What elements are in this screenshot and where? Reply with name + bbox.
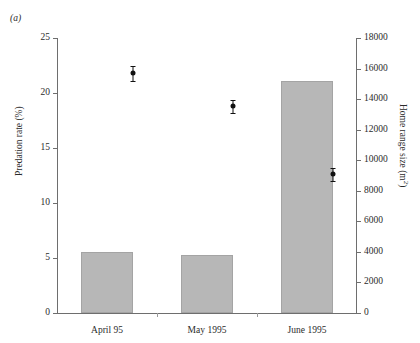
- right-tick: [356, 252, 361, 253]
- right-tick: [356, 130, 361, 131]
- left-tick: [53, 313, 58, 314]
- right-tick-label: 10000: [364, 155, 388, 165]
- right-tick: [356, 38, 361, 39]
- category-tick: [257, 313, 258, 317]
- category-label: April 95: [91, 325, 123, 336]
- data-point-marker: [230, 104, 235, 109]
- error-bar-cap-lower: [330, 181, 335, 182]
- panel-label: (a): [10, 13, 21, 23]
- left-tick-label: 5: [45, 253, 50, 263]
- left-tick-label: 0: [45, 308, 50, 318]
- left-axis-line: [57, 38, 58, 314]
- right-tick-label: 14000: [364, 94, 388, 104]
- right-tick-label: 2000: [364, 278, 383, 288]
- right-tick-label: 12000: [364, 125, 388, 135]
- left-tick: [53, 203, 58, 204]
- error-bar-cap-lower: [230, 113, 235, 114]
- right-tick: [356, 99, 361, 100]
- category-label: May 1995: [188, 325, 227, 336]
- left-tick: [53, 258, 58, 259]
- right-axis-title-base: Home range size (m: [398, 104, 408, 181]
- plot-area: 0510152025 02000400060008000100001200014…: [57, 38, 357, 313]
- data-point-marker: [130, 71, 135, 76]
- category-tick: [157, 313, 158, 317]
- right-tick-label: 4000: [364, 247, 383, 257]
- left-tick: [53, 148, 58, 149]
- error-bar-cap-upper: [230, 100, 235, 101]
- data-point-group: [332, 38, 333, 313]
- right-tick-label: 6000: [364, 217, 383, 227]
- bar: [281, 81, 333, 313]
- right-tick: [356, 313, 361, 314]
- error-bar-cap-upper: [330, 168, 335, 169]
- category-label: June 1995: [288, 325, 327, 336]
- right-tick-label: 18000: [364, 33, 388, 43]
- left-tick-label: 20: [41, 88, 51, 98]
- right-tick: [356, 221, 361, 222]
- figure-panel-a: (a) Predation rate (%) Home range size (…: [0, 0, 420, 343]
- left-tick: [53, 38, 58, 39]
- data-point-marker: [330, 172, 335, 177]
- right-tick-label: 8000: [364, 186, 383, 196]
- left-tick: [53, 93, 58, 94]
- error-bar-cap-lower: [130, 81, 135, 82]
- bar: [81, 252, 133, 313]
- right-tick: [356, 191, 361, 192]
- left-axis-title: Predation rate (%): [14, 106, 24, 176]
- bar: [181, 255, 233, 313]
- right-axis-title: Home range size (m2): [398, 104, 410, 187]
- right-axis-line: [356, 38, 357, 314]
- right-tick: [356, 282, 361, 283]
- right-tick-label: 0: [364, 308, 369, 318]
- error-bar-cap-upper: [130, 66, 135, 67]
- right-tick: [356, 69, 361, 70]
- bottom-axis-line: [57, 313, 357, 314]
- left-tick-label: 25: [41, 33, 51, 43]
- right-tick-label: 16000: [364, 64, 388, 74]
- right-axis-title-close: ): [398, 184, 408, 187]
- left-tick-label: 15: [41, 143, 51, 153]
- right-tick: [356, 160, 361, 161]
- data-point-group: [132, 38, 133, 313]
- data-point-group: [232, 38, 233, 313]
- left-tick-label: 10: [41, 198, 51, 208]
